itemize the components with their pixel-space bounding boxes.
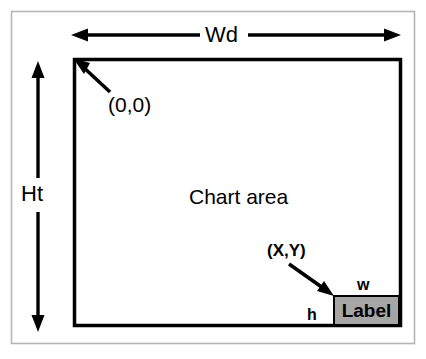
chart-area-label: Chart area bbox=[189, 186, 288, 207]
diagram-root: Wd Ht (0,0) Chart area (X,Y) w h Label bbox=[0, 0, 426, 359]
width-dimension-label: Wd bbox=[205, 24, 238, 46]
position-coordinate-label: (X,Y) bbox=[267, 242, 306, 259]
legend-height-label: h bbox=[307, 307, 317, 323]
legend-box-text: Label bbox=[335, 297, 398, 324]
height-dimension-label: Ht bbox=[21, 183, 43, 205]
legend-width-label: w bbox=[357, 277, 369, 293]
origin-coordinate-label: (0,0) bbox=[108, 94, 151, 115]
legend-box: Label bbox=[333, 295, 400, 326]
